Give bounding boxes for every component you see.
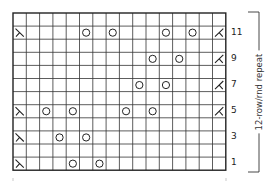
yo-icon <box>56 134 63 141</box>
left-decrease-icon <box>16 160 24 168</box>
yo-icon <box>109 29 116 36</box>
yo-icon <box>149 55 156 62</box>
yo-icon <box>96 160 103 167</box>
row-number-7: 7 <box>231 80 237 89</box>
left-decrease-icon <box>16 29 24 37</box>
yo-icon <box>43 108 50 115</box>
yo-icon <box>176 55 183 62</box>
yo-icon <box>136 81 143 88</box>
right-decrease-icon <box>215 29 223 37</box>
repeat-label: 12-row/rnd repeat <box>254 51 264 134</box>
row-number-5: 5 <box>231 106 237 115</box>
right-decrease-icon <box>215 55 223 63</box>
row-number-3: 3 <box>231 132 237 141</box>
left-decrease-icon <box>16 133 24 141</box>
yo-icon <box>69 108 76 115</box>
row-number-11: 11 <box>231 28 242 37</box>
yo-icon <box>69 160 76 167</box>
yo-icon <box>149 108 156 115</box>
yo-icon <box>122 108 129 115</box>
right-decrease-icon <box>215 81 223 89</box>
yo-icon <box>162 81 169 88</box>
right-decrease-icon <box>215 107 223 115</box>
row-number-9: 9 <box>231 54 237 63</box>
yo-icon <box>162 29 169 36</box>
left-decrease-icon <box>16 107 24 115</box>
yo-icon <box>189 29 196 36</box>
yo-icon <box>83 134 90 141</box>
yo-icon <box>83 29 90 36</box>
row-number-1: 1 <box>231 158 237 167</box>
